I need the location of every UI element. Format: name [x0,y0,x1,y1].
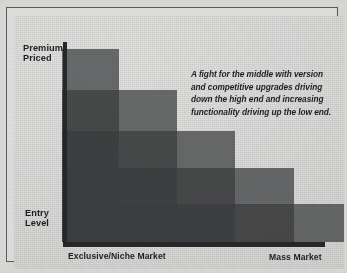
figure-frame: Premium Priced Entry Level Exclusive/Nic… [6,7,338,262]
y-axis-bottom-label-line2: Level [25,218,49,228]
diagram-page: Premium Priced Entry Level Exclusive/Nic… [0,0,347,273]
annotation-line-2: and competitive upgrades driving [191,81,341,94]
y-axis-top-label: Premium Priced [23,43,63,63]
x-axis-left-label: Exclusive/Niche Market [68,252,166,261]
y-axis-top-label-line1: Premium [23,43,63,53]
x-axis-line [63,242,325,247]
plot-canvas: Premium Priced Entry Level Exclusive/Nic… [14,16,344,269]
annotation-line-1: A fight for the middle with version [191,68,341,81]
annotation-line-3: down the high end and increasing [191,93,341,106]
annotation-line-4: functionality driving up the low end. [191,106,341,119]
y-axis-top-label-line2: Priced [23,53,52,63]
y-axis-bottom-label-line1: Entry [25,208,49,218]
y-axis-bottom-label: Entry Level [25,208,65,228]
step-bar-5 [62,204,344,242]
x-axis-right-label: Mass Market [269,253,322,262]
annotation-text: A fight for the middle with version and … [191,68,341,118]
